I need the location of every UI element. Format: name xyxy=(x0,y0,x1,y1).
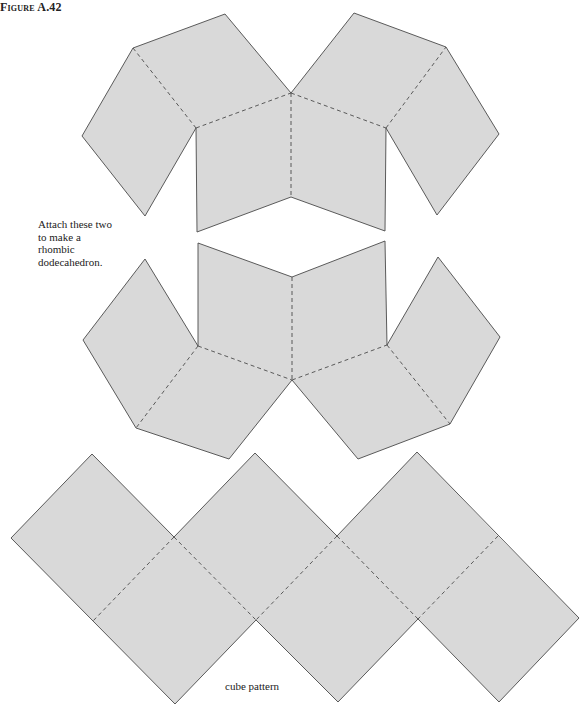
instructions-line: dodecahedron. xyxy=(38,256,128,269)
instructions-line: rhombic xyxy=(38,243,128,256)
rhombic-dodecahedron-net-bottom xyxy=(83,241,500,459)
rhombic-dodecahedron-net-top xyxy=(82,13,499,232)
instructions-line: Attach these two xyxy=(38,218,128,231)
figure-canvas xyxy=(0,0,584,725)
assembly-instructions: Attach these two to make a rhombic dodec… xyxy=(38,218,128,268)
cube-pattern-label: cube pattern xyxy=(225,680,279,693)
instructions-line: to make a xyxy=(38,231,128,244)
cube-net xyxy=(11,452,579,704)
